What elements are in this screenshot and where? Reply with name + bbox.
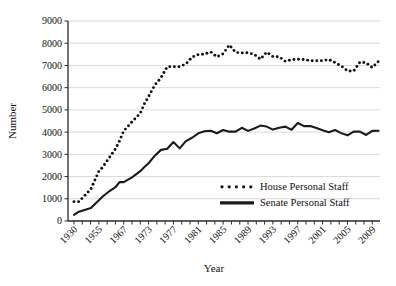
house-data-dot [355,65,358,68]
house-data-dot [254,54,257,57]
x-tick-label: 1997 [281,224,303,246]
house-data-dot [206,52,209,55]
house-data-dot [139,111,142,114]
house-data-dot [324,59,327,62]
house-data-dot [213,54,216,57]
house-data-dot [245,51,248,54]
x-tick-label: 1973 [132,224,154,246]
house-data-dot [227,45,230,48]
x-tick-label: 1985 [207,224,229,246]
house-data-dot [201,53,204,56]
house-data-dot [154,82,157,85]
house-data-dot [111,152,114,155]
house-data-dot [73,200,76,203]
y-tick-label: 4000 [42,127,62,138]
house-data-dot [84,194,87,197]
house-data-dot [236,51,239,54]
gridlines-group [68,21,380,199]
house-data-dot [145,98,148,101]
house-data-dot [118,140,121,143]
house-data-dot [345,68,348,71]
house-data-dot [77,200,80,203]
house-data-dot [276,55,279,58]
legend-dotted-line-marker [235,185,238,188]
y-axis-title: Number [6,103,18,139]
y-tick-label: 8000 [42,38,62,49]
house-data-dot [186,61,189,64]
x-tick-label: 1977 [157,224,179,246]
house-data-dot [152,86,155,89]
house-data-dot [168,65,171,68]
chart-legend: House Personal StaffSenate Personal Staf… [220,181,350,208]
house-data-dot [121,131,124,134]
house-data-dot [358,61,361,64]
house-data-dot [224,49,227,52]
house-data-dot [103,163,106,166]
y-tick-label: 0 [57,215,62,226]
house-data-dot [133,118,136,121]
house-data-dot [337,63,340,66]
house-data-dot [210,51,213,54]
y-tick-label: 5000 [42,104,62,115]
line-chart: 0100020003000400050006000700080009000 19… [0,0,396,286]
house-data-dot [280,57,283,60]
house-data-dot [315,59,318,62]
house-data-dot [230,46,233,49]
house-data-dot [250,52,253,55]
house-data-dot [192,55,195,58]
house-data-dot [150,90,153,93]
house-data-dot [373,64,376,67]
x-tick-label: 1993 [256,224,278,246]
house-data-dot [329,59,332,62]
house-data-dot [148,94,151,97]
legend-label: Senate Personal Staff [260,197,350,208]
house-data-dot [173,65,176,68]
x-tick-label: 1981 [182,224,204,246]
legend-dotted-line-marker [249,185,252,188]
house-data-dot [127,124,130,127]
x-tick-label: 2005 [331,224,353,246]
house-data-dot [100,167,103,170]
house-data-dot [197,53,200,56]
x-tick-label: 2009 [356,224,378,246]
house-data-dot [178,65,181,68]
house-data-dot [108,156,111,159]
house-data-dot [120,136,123,139]
x-tick-labels-group: 1930195519671973197719811985198919931997… [57,224,377,246]
house-data-dot [157,79,160,82]
house-data-dot [87,190,90,193]
house-data-dot [284,60,287,63]
house-data-dot [297,58,300,61]
house-data-dot [182,64,185,67]
house-data-dot [217,55,220,58]
house-data-dot [90,187,93,190]
legend-dotted-line-marker [228,185,231,188]
house-data-dot [160,75,163,78]
house-data-dot [353,69,356,72]
house-data-dot [271,55,274,58]
house-data-dot [292,58,295,61]
house-data-dot [261,56,264,59]
house-data-dot [241,51,244,54]
house-data-dot [311,59,314,62]
house-data-dot [349,70,352,73]
y-tick-label: 2000 [42,171,62,182]
house-data-dot [370,65,373,68]
y-tick-label: 7000 [42,60,62,71]
house-data-dot [333,61,336,64]
house-data-dot [114,148,117,151]
house-data-dot [377,60,380,63]
house-data-dot [302,58,305,61]
house-data-dot [92,183,95,186]
legend-dotted-line-marker [242,185,245,188]
house-data-dot [80,197,83,200]
house-data-dot [95,174,98,177]
x-tick-label: 1967 [107,224,129,246]
house-data-dot [143,102,146,105]
house-data-dot [97,170,100,173]
house-data-dot [362,61,365,64]
house-data-dot [137,114,140,117]
y-tick-label: 1000 [42,193,62,204]
house-data-dot [320,59,323,62]
y-tick-label: 9000 [42,15,62,26]
